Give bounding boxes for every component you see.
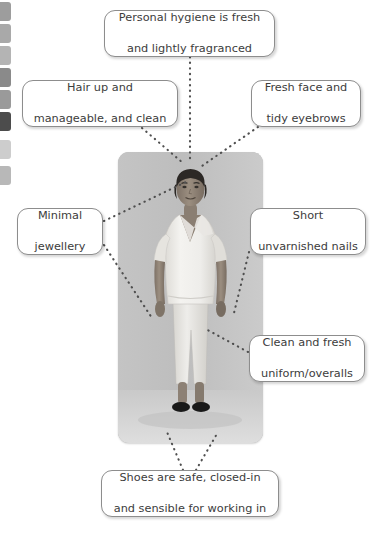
callout-hair-text: Hair up andmanageable, and clean [30, 80, 170, 127]
chapter-tab-strip [0, 0, 12, 210]
chapter-tab-8[interactable] [0, 166, 11, 185]
callout-nails-line1: Short [258, 208, 358, 224]
chapter-tab-4[interactable] [0, 68, 11, 87]
callout-face-line1: Fresh face and [259, 80, 353, 96]
callout-personal-hygiene: Personal hygiene is freshand lightly fra… [104, 10, 275, 57]
callout-shoes-line2: and sensible for working in [109, 501, 271, 517]
callout-face-text: Fresh face andtidy eyebrows [259, 80, 353, 127]
chapter-tab-5[interactable] [0, 90, 11, 109]
callout-jewellery-text: Minimaljewellery [25, 208, 95, 255]
callout-face: Fresh face andtidy eyebrows [251, 80, 361, 127]
diagram-page: Personal hygiene is freshand lightly fra… [0, 0, 377, 534]
callout-jewellery-line1: Minimal [25, 208, 95, 224]
callout-shoes-line1: Shoes are safe, closed-in [109, 470, 271, 486]
callout-shoes-text: Shoes are safe, closed-inand sensible fo… [109, 470, 271, 517]
callout-hair: Hair up andmanageable, and clean [22, 80, 178, 127]
chapter-tab-2[interactable] [0, 24, 11, 43]
chapter-tab-7[interactable] [0, 140, 11, 159]
callout-personal-hygiene-text: Personal hygiene is freshand lightly fra… [112, 10, 267, 57]
chapter-tab-6[interactable] [0, 112, 11, 131]
callout-uniform-line2: uniform/overalls [257, 366, 357, 382]
callout-jewellery: Minimaljewellery [17, 208, 103, 255]
callout-nails-text: Shortunvarnished nails [258, 208, 358, 255]
callout-hair-line1: Hair up and [30, 80, 170, 96]
callout-nails-line2: unvarnished nails [258, 239, 358, 255]
callout-personal-hygiene-line2: and lightly fragranced [112, 41, 267, 57]
callout-uniform-text: Clean and freshuniform/overalls [257, 335, 357, 382]
callout-uniform: Clean and freshuniform/overalls [249, 335, 365, 382]
chapter-tab-1[interactable] [0, 2, 11, 21]
callout-hair-line2: manageable, and clean [30, 111, 170, 127]
callout-nails: Shortunvarnished nails [250, 208, 366, 255]
callout-shoes: Shoes are safe, closed-inand sensible fo… [101, 470, 279, 517]
callout-uniform-line1: Clean and fresh [257, 335, 357, 351]
uniform-photo-illustration [118, 152, 263, 443]
callout-jewellery-line2: jewellery [25, 239, 95, 255]
callout-personal-hygiene-line1: Personal hygiene is fresh [112, 10, 267, 26]
callout-face-line2: tidy eyebrows [259, 111, 353, 127]
chapter-tab-3[interactable] [0, 46, 11, 65]
uniform-photo [118, 152, 263, 443]
